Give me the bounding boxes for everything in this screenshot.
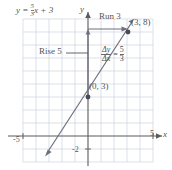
run-arrow <box>88 26 128 31</box>
x-tick-5: 5 <box>150 130 154 138</box>
delta-y: Δy <box>101 46 111 54</box>
y-axis-label: y <box>80 5 84 14</box>
point-label-y-intercept: (0, 3) <box>89 82 109 91</box>
x-axis-label: x <box>163 130 167 139</box>
equation-intercept: 3 <box>49 5 54 15</box>
rise-label: Rise 5 <box>39 47 62 56</box>
slope-value-fraction: 5 3 <box>120 46 124 64</box>
point-label-second: (3, 8) <box>131 18 151 27</box>
point-y-intercept <box>86 95 91 100</box>
equation-plus: + <box>40 5 46 15</box>
equation-variable: x <box>34 5 38 15</box>
x-tick-negative-5: -5 <box>13 136 20 144</box>
y-tick-negative-2: -2 <box>72 146 79 154</box>
slope-value-numerator: 5 <box>120 46 124 54</box>
equation-lhs: y <box>16 5 20 15</box>
axis-x <box>8 133 162 139</box>
slope-value-denominator: 3 <box>120 54 124 63</box>
equation-label: y = 5 3 x + 3 <box>16 3 53 18</box>
delta-fraction: Δy Δx <box>101 46 111 64</box>
slope-equals-sign: = <box>113 50 118 59</box>
run-label: Run 3 <box>99 12 121 21</box>
graph-figure: y = 5 3 x + 3 y x Run 3 Rise 5 (3, 8) (0… <box>0 0 172 170</box>
equation-equals: = <box>22 5 28 15</box>
slope-ratio-annotation: Δy Δx = 5 3 <box>101 46 124 64</box>
delta-x: Δx <box>101 54 111 63</box>
point-second <box>126 30 131 35</box>
